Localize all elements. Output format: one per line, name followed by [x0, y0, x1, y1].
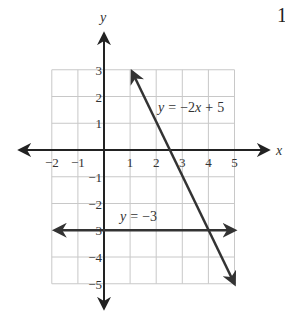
y-tick-label: −1 — [88, 170, 102, 185]
y-tick-label: −2 — [88, 197, 102, 212]
x-axis-label: x — [275, 143, 283, 158]
x-tick-label: 3 — [179, 155, 186, 170]
x-tick-label: 2 — [153, 155, 160, 170]
y-tick-labels: 321−1−2−3−4−5 — [88, 63, 102, 292]
x-tick-label: 1 — [127, 155, 134, 170]
y-tick-label: 3 — [96, 63, 103, 78]
x-tick-label: −2 — [45, 155, 59, 170]
y-tick-label: 1 — [96, 116, 103, 131]
y-axis-label: y — [98, 10, 107, 25]
y-tick-label: 2 — [96, 90, 103, 105]
x-tick-label: −1 — [71, 155, 85, 170]
y-tick-label: −5 — [88, 277, 102, 292]
x-tick-label: 4 — [205, 155, 212, 170]
x-tick-labels: −2−112345 — [45, 155, 238, 170]
x-tick-label: 5 — [231, 155, 238, 170]
y-tick-label: −4 — [88, 250, 102, 265]
coordinate-plot: x y −2−112345 321−1−2−3−4−5 y=−2x+5 y=−3 — [0, 0, 285, 312]
label-y-neg2x-plus5: y=−2x+5 — [156, 100, 224, 115]
label-y-neg3: y=−3 — [118, 209, 157, 224]
